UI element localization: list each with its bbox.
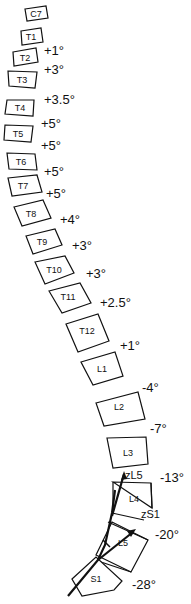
vertebra-t7: T7 — [8, 175, 42, 196]
vertebra-t3: T3 — [8, 71, 37, 88]
angle-label: -7° — [150, 421, 167, 436]
svg-text:L3: L3 — [123, 448, 133, 458]
vertebra-c7: C7 — [25, 6, 48, 21]
vertebra-t10: T10 — [35, 256, 74, 284]
vertebra-t9: T9 — [26, 229, 62, 254]
vertebra-t2: T2 — [13, 48, 38, 66]
zs1-label: zS1 — [141, 508, 160, 520]
svg-text:S1: S1 — [90, 574, 101, 584]
vertebra-t11: T11 — [49, 283, 91, 313]
vertebra-t8: T8 — [14, 200, 51, 226]
angle-label: +5° — [41, 116, 61, 131]
angle-label: +5° — [46, 186, 66, 201]
vertebra-t12: T12 — [66, 314, 109, 352]
svg-text:T6: T6 — [16, 157, 27, 167]
angle-label: -13° — [160, 470, 184, 485]
angle-label: +5° — [44, 164, 64, 179]
angle-label: -20° — [155, 527, 179, 542]
svg-text:T9: T9 — [37, 237, 48, 247]
vertebra-l5: L5 — [96, 513, 148, 572]
spine-diagram: C7 T1 T2 T3 T4 T5 T6 T7 T8 T9 T10 T — [0, 0, 191, 604]
svg-text:T3: T3 — [17, 75, 28, 85]
svg-text:T5: T5 — [13, 129, 24, 139]
vertebra-t5: T5 — [4, 125, 33, 142]
angle-label: +3° — [86, 266, 106, 281]
angle-label: +3° — [72, 238, 92, 253]
svg-text:L2: L2 — [114, 402, 124, 412]
svg-text:T8: T8 — [26, 209, 37, 219]
vertebra-l3: L3 — [107, 437, 148, 468]
angle-label: +5° — [41, 138, 61, 153]
vertebra-t6: T6 — [7, 153, 37, 170]
svg-text:T11: T11 — [61, 292, 76, 302]
svg-text:L4: L4 — [129, 494, 139, 504]
svg-text:C7: C7 — [30, 9, 42, 19]
angle-label: +2.5° — [100, 295, 131, 310]
angle-label: -4° — [142, 380, 159, 395]
vertebra-t1: T1 — [21, 28, 43, 45]
svg-text:L1: L1 — [97, 364, 107, 374]
angle-label: +1° — [44, 43, 64, 58]
angle-label: -28° — [132, 577, 156, 592]
svg-text:T1: T1 — [26, 32, 37, 42]
angle-label: +3.5° — [44, 92, 75, 107]
svg-text:T10: T10 — [46, 265, 62, 275]
svg-text:T7: T7 — [18, 181, 29, 191]
svg-text:T4: T4 — [15, 103, 26, 113]
svg-text:T2: T2 — [20, 53, 31, 63]
vertebra-l2: L2 — [96, 392, 145, 426]
svg-text:T12: T12 — [79, 326, 95, 336]
angle-label: +1° — [120, 338, 140, 353]
angle-label: +4° — [60, 212, 80, 227]
zl5-label: zL5 — [125, 469, 143, 481]
vertebra-l1: L1 — [81, 352, 123, 385]
vertebra-t4: T4 — [5, 100, 34, 116]
angle-label: +3° — [44, 62, 64, 77]
